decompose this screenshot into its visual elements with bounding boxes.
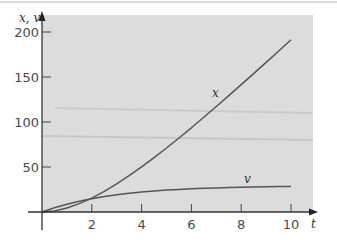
x-axis-label: t: [311, 217, 316, 231]
x-tick-label: 8: [237, 217, 245, 232]
y-tick-label: 100: [14, 115, 39, 130]
y-tick-label: 200: [14, 25, 39, 40]
plot-background: [42, 15, 313, 212]
curve-label-v: v: [244, 172, 251, 186]
chart: 24681050100150200 x, v t x v: [0, 0, 337, 244]
y-tick-label: 150: [14, 70, 39, 85]
x-tick-label: 10: [283, 217, 300, 232]
curve-label-x: x: [212, 86, 219, 100]
y-tick-label: 50: [22, 160, 39, 175]
x-tick-label: 2: [88, 217, 96, 232]
y-axis-label: x, v: [19, 11, 40, 25]
x-tick-label: 6: [187, 217, 195, 232]
x-tick-label: 4: [137, 217, 145, 232]
x-axis-arrow-icon: [309, 209, 318, 216]
